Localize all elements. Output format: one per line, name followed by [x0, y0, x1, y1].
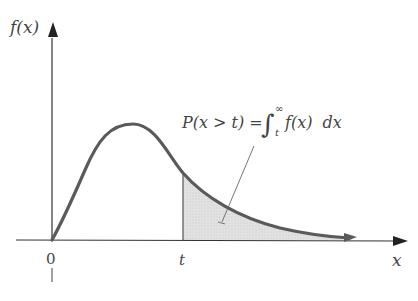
x-axis-label: x: [392, 250, 402, 270]
pdf-diagram: f(x) x 0 t P(x > t) = ∫ ∞ t f(x) dx: [0, 0, 418, 301]
integral-upper-limit: ∞: [275, 103, 283, 114]
integral-lower-limit: t: [275, 127, 280, 138]
integrand: f(x) dx: [284, 113, 342, 132]
t-label: t: [179, 251, 186, 269]
y-axis-label: f(x): [8, 17, 39, 37]
x-axis-arrow-icon: [393, 236, 408, 246]
x-axis: [16, 240, 400, 241]
origin-label: 0: [46, 250, 56, 268]
shaded-tail-area: [183, 173, 350, 240]
probability-lhs: P(x > t) =: [181, 113, 263, 132]
y-axis-arrow-icon: [48, 22, 58, 37]
annotation-leader: [222, 146, 254, 222]
integral-sign: ∫: [261, 109, 275, 139]
